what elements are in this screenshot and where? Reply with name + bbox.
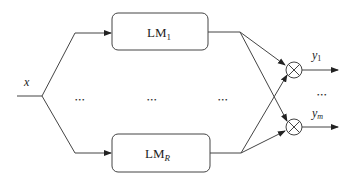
input-label: x	[23, 75, 30, 89]
ellipsis-middle: •••	[147, 96, 157, 104]
edge-lm1-to-y1	[240, 32, 285, 65]
diagram-canvas: x LM1 LMR y1 ym ••• ••• ••• •••	[0, 0, 358, 181]
multiply-icon-m	[286, 119, 302, 135]
edge-lm1-to-ym	[240, 32, 287, 121]
module-label-lmr: LMR	[145, 146, 171, 163]
ellipsis-right: •••	[218, 96, 228, 104]
module-label-lm1: LM1	[147, 25, 171, 42]
ellipsis-outputs: •••	[317, 91, 327, 99]
edge-input-to-lmr	[42, 96, 111, 153]
output-label-y1: y1	[311, 48, 321, 63]
ellipsis-left: •••	[75, 96, 85, 104]
multiply-icon-1	[286, 62, 302, 78]
edge-input-to-lm1	[42, 33, 111, 96]
output-label-ym: ym	[311, 106, 323, 121]
